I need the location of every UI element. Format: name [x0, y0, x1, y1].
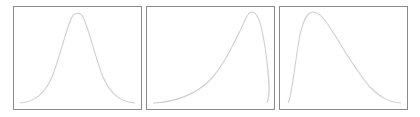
symmetric-curve-plot — [14, 7, 141, 109]
symmetric-curve — [20, 13, 135, 103]
left-skewed-curve-plot — [147, 7, 274, 109]
distribution-charts — [0, 0, 420, 117]
right-skewed-curve — [288, 12, 401, 103]
right-skewed-curve-plot — [280, 7, 407, 109]
chart-panel-right-skewed — [279, 6, 408, 110]
chart-panel-left-skewed — [146, 6, 275, 110]
chart-panel-symmetric — [13, 6, 142, 110]
left-skewed-curve — [153, 12, 269, 103]
